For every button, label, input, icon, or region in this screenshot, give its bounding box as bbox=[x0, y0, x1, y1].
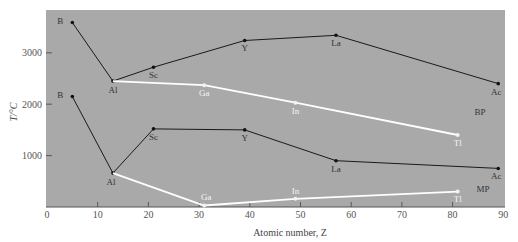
data-point bbox=[202, 83, 206, 87]
point-label: Ga bbox=[201, 192, 212, 202]
point-label: Ga bbox=[199, 88, 210, 98]
data-point bbox=[202, 203, 206, 207]
x-tick-label: 0 bbox=[45, 209, 50, 220]
bp-tag: BP bbox=[474, 107, 485, 117]
point-label: Ac bbox=[491, 171, 502, 181]
point-label: In bbox=[292, 106, 300, 116]
y-tick-label: 3000 bbox=[22, 47, 42, 58]
y-axis-title: T/°C bbox=[8, 102, 19, 121]
x-tick-label: 60 bbox=[346, 209, 356, 220]
x-tick-label: 90 bbox=[498, 209, 508, 220]
data-point bbox=[293, 101, 297, 105]
x-tick-label: 40 bbox=[245, 209, 255, 220]
chart: 0102030405060708090100020003000 BAlScYLa… bbox=[0, 0, 518, 242]
point-label: In bbox=[292, 186, 300, 196]
point-label: La bbox=[331, 38, 341, 48]
y-tick-label: 2000 bbox=[22, 99, 42, 110]
point-label: Tl bbox=[454, 194, 462, 204]
data-point bbox=[152, 127, 156, 131]
data-point bbox=[496, 167, 500, 171]
x-tick-label: 20 bbox=[143, 209, 153, 220]
point-label: B bbox=[57, 16, 63, 26]
data-point bbox=[456, 133, 460, 137]
data-point bbox=[334, 34, 338, 38]
data-point bbox=[71, 21, 75, 25]
point-label: Ac bbox=[491, 87, 502, 97]
point-label: La bbox=[331, 164, 341, 174]
data-point bbox=[496, 82, 500, 86]
point-label: Al bbox=[108, 85, 117, 95]
x-axis-title: Atomic number, Z bbox=[253, 227, 327, 238]
data-point bbox=[293, 197, 297, 201]
point-label: Sc bbox=[149, 70, 158, 80]
point-label: Y bbox=[241, 43, 248, 53]
point-label: Tl bbox=[454, 138, 462, 148]
data-point bbox=[152, 65, 156, 69]
point-label: Sc bbox=[149, 132, 158, 142]
x-tick-label: 80 bbox=[448, 209, 458, 220]
data-point bbox=[243, 39, 247, 43]
data-point bbox=[334, 159, 338, 163]
data-point bbox=[71, 95, 75, 99]
data-point bbox=[243, 128, 247, 132]
x-tick-label: 70 bbox=[397, 209, 407, 220]
mp-tag: MP bbox=[476, 184, 489, 194]
point-label: Y bbox=[241, 133, 248, 143]
x-tick-label: 50 bbox=[296, 209, 306, 220]
x-tick-label: 30 bbox=[194, 209, 204, 220]
y-tick-label: 1000 bbox=[22, 150, 42, 161]
point-label: Al bbox=[106, 177, 115, 187]
x-tick-label: 10 bbox=[93, 209, 103, 220]
point-label: B bbox=[57, 90, 63, 100]
